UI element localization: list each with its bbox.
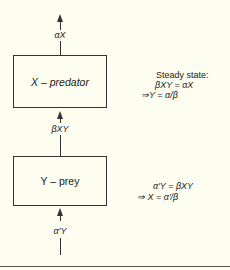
prey-steady-state-equation: α′Y = βXY — [153, 181, 193, 191]
prey-box-label: Y – prey — [41, 175, 80, 187]
flow-line-prey-in — [60, 214, 61, 221]
flow-line-predator-out-lower — [60, 41, 61, 55]
flow-line-predator-out — [60, 20, 61, 30]
predator-steady-state-heading: Steady state: — [156, 70, 209, 80]
prey-box: Y – prey — [13, 156, 107, 206]
flow-line-prey-in-lower — [60, 238, 61, 255]
predator-box: X – predator — [13, 55, 107, 108]
flow-line-prey-to-predator — [60, 116, 61, 123]
predator-steady-state-equation: βXY = αX — [155, 80, 193, 90]
predator-steady-state-result: ⇒Y = α/β — [141, 90, 178, 100]
flow-label-predator-out: αX — [45, 30, 75, 40]
predator-box-label: X – predator — [31, 76, 89, 88]
prey-steady-state-result: ⇒ X = α′/β — [137, 192, 178, 202]
flow-line-prey-to-predator-lower — [60, 135, 61, 156]
bottom-divider — [0, 266, 230, 267]
flow-label-prey-to-predator: βXY — [42, 124, 78, 134]
flow-label-prey-in: α′Y — [45, 226, 75, 236]
